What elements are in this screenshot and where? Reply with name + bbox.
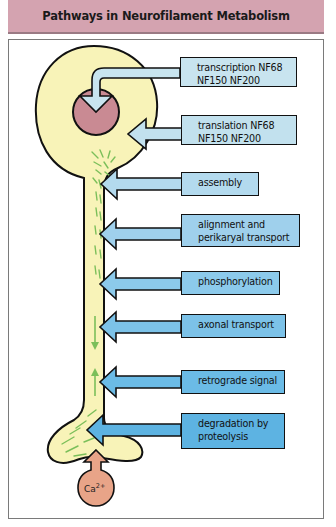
pathway-label-line: degradation by [198, 417, 284, 430]
pathway-label-line: axonal transport [198, 318, 285, 331]
pathway-box-alignment: alignment and perikaryal transport [181, 214, 300, 247]
pathway-label-line: alignment and [198, 218, 299, 231]
pathway-label-line: phosphorylation [198, 275, 279, 288]
pathway-label-line: perikaryal transport [198, 231, 299, 244]
calcium-label: Ca2+ [84, 482, 105, 494]
arrow-retrograde-signal [100, 367, 181, 397]
calcium-symbol: Ca [84, 484, 96, 494]
pathway-label-line: proteolysis [198, 430, 284, 443]
pathway-label-line: NF150 NF200 [198, 132, 296, 145]
pathway-box-phosphorylation: phosphorylation [181, 271, 280, 295]
arrow-alignment [100, 219, 181, 249]
pathway-box-degradation: degradation by proteolysis [181, 413, 285, 449]
arrow-phosphorylation [100, 269, 181, 299]
pathway-box-transcription: transcription NF68 NF150 NF200 [180, 57, 297, 87]
pathway-label-line: assembly [198, 176, 258, 189]
pathway-label-line: NF150 NF200 [197, 74, 296, 87]
pathway-label-line: translation NF68 [198, 119, 296, 132]
pathway-box-retrograde-signal: retrograde signal [181, 370, 285, 394]
arrow-assembly [101, 169, 182, 199]
calcium-charge: 2+ [96, 482, 106, 490]
pathway-box-translation: translation NF68 NF150 NF200 [181, 115, 297, 145]
pathway-label-line: transcription NF68 [197, 61, 296, 74]
pathway-box-axonal-transport: axonal transport [181, 314, 286, 338]
arrow-axonal-transport [100, 312, 181, 342]
pathway-box-assembly: assembly [181, 172, 259, 196]
pathway-label-line: retrograde signal [198, 374, 284, 387]
